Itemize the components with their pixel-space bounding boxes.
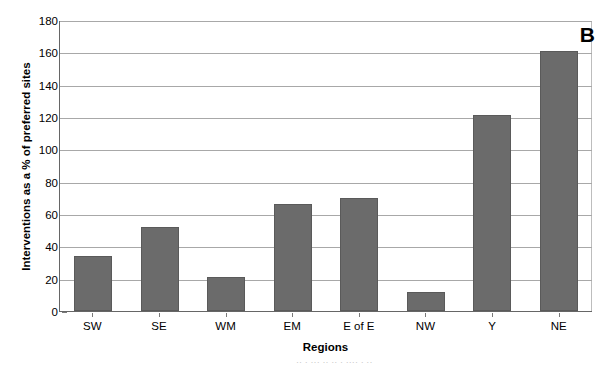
x-axis-tick-mark [159,313,160,317]
y-axis-tick-label: 140 [18,79,58,93]
x-axis-tick-label: NE [525,320,592,332]
x-axis-slot: NW [392,313,459,343]
y-axis-tick-label: 0 [18,305,58,319]
x-axis-slot: SE [126,313,193,343]
x-axis-tick-label: SE [126,320,193,332]
x-axis-slot: E of E [326,313,393,343]
bar-slot [60,21,127,311]
bar-slot [260,21,327,311]
x-axis-tick-label: SW [59,320,126,332]
x-axis-tick-label: NW [392,320,459,332]
y-axis-tick-label: 160 [18,46,58,60]
y-axis-tick-label: 60 [18,208,58,222]
x-axis-tick-mark [292,313,293,317]
x-axis-tick-label: EM [259,320,326,332]
bar-series [60,21,592,311]
y-axis-tick-label: 180 [18,14,58,28]
bar-em [274,204,312,311]
y-axis-tick-label: 80 [18,176,58,190]
y-axis-tick-labels: 020406080100120140160180 [10,0,58,365]
x-axis-title: Regions [59,341,592,353]
x-axis-slot: NE [525,313,592,343]
bar-wm [207,277,245,311]
y-axis-tick-label: 20 [18,273,58,287]
x-axis-tick-mark [226,313,227,317]
plot-area [59,21,592,312]
x-axis-tick-label: Y [459,320,526,332]
x-axis-tick-label: WM [192,320,259,332]
x-axis-tick-mark [492,313,493,317]
bar-slot [393,21,460,311]
y-axis-tick-label: 40 [18,240,58,254]
bar-sw [74,256,112,311]
x-axis-tick-labels: SWSEWMEME of ENWYNE [59,313,592,343]
bar-nw [407,292,445,311]
bar-chart-figure: Interventions as a % of preferred sites … [0,0,609,365]
bar-slot [459,21,526,311]
bar-slot [526,21,593,311]
x-axis-tick-mark [92,313,93,317]
bar-slot [127,21,194,311]
x-axis-tick-mark [359,313,360,317]
bar-slot [193,21,260,311]
x-axis-tick-label: E of E [326,320,393,332]
x-axis-tick-mark [425,313,426,317]
bar-ne [540,51,578,311]
x-axis-tick-mark [559,313,560,317]
bar-se [141,227,179,311]
x-axis-slot: WM [192,313,259,343]
caption-sliver: ·· · ··· ·· ·· · ···· · ·· [296,357,604,363]
bar-y [473,115,511,311]
bar-e-of-e [340,198,378,311]
y-axis-tick-label: 120 [18,111,58,125]
x-axis-slot: EM [259,313,326,343]
x-axis-slot: SW [59,313,126,343]
bar-slot [326,21,393,311]
y-axis-tick-label: 100 [18,143,58,157]
panel-letter: B [580,24,595,45]
x-axis-slot: Y [459,313,526,343]
